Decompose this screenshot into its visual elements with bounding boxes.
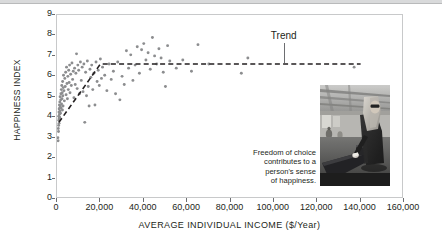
scatter-point: [66, 75, 69, 78]
scatter-point: [62, 89, 65, 92]
scatter-point: [57, 130, 60, 133]
caption-line-4: of happiness.: [208, 176, 316, 185]
scatter-point: [138, 72, 141, 75]
scatter-point: [58, 116, 61, 119]
y-axis-title: HAPPINESS INDEX: [12, 35, 22, 165]
x-tick-label: 160,000: [373, 203, 433, 212]
y-tick-label: 3: [30, 132, 52, 141]
y-tick-label: 7: [30, 50, 52, 59]
y-tick-label: 8: [30, 29, 52, 38]
y-tick-label: 5: [30, 91, 52, 100]
scatter-point: [62, 105, 65, 108]
scatter-point: [149, 68, 152, 71]
scatter-point: [61, 80, 64, 83]
scatter-point: [246, 56, 249, 59]
y-tick-mark: [52, 137, 55, 138]
caption-line-1: Freedom of choice: [208, 148, 316, 157]
top-band-rule: [0, 3, 442, 4]
scatter-point: [84, 71, 87, 74]
scatter-point: [142, 42, 145, 45]
y-tick-mark: [52, 157, 55, 158]
scatter-point: [131, 79, 134, 82]
scatter-point: [162, 71, 165, 74]
scatter-point: [72, 70, 75, 73]
scatter-point: [91, 88, 94, 91]
scatter-point: [101, 66, 104, 69]
scatter-point: [65, 66, 68, 69]
voting-photo-graphic: [320, 85, 390, 186]
scatter-point: [110, 78, 113, 81]
scatter-point: [89, 68, 92, 71]
scatter-point: [121, 75, 124, 78]
scatter-point: [61, 109, 64, 112]
scatter-point: [97, 69, 100, 72]
caption-line-3: person's sense: [208, 167, 316, 176]
scatter-point: [65, 93, 68, 96]
y-tick-label: 1: [30, 173, 52, 182]
scatter-point: [80, 79, 83, 82]
scatter-point: [190, 70, 193, 73]
scatter-point: [76, 87, 79, 90]
scatter-point: [175, 67, 178, 70]
scatter-point: [353, 66, 356, 69]
scatter-point: [63, 77, 66, 80]
scatter-point: [118, 98, 121, 101]
scatter-point: [57, 127, 60, 130]
scatter-point: [62, 74, 65, 77]
scatter-point: [64, 71, 67, 74]
figure-caption: Freedom of choice contributes to a perso…: [208, 148, 316, 186]
scatter-point: [103, 74, 106, 77]
scatter-point: [74, 83, 77, 86]
y-tick-mark: [52, 116, 55, 117]
y-tick-label: 4: [30, 111, 52, 120]
caption-line-2: contributes to a: [208, 157, 316, 166]
y-tick-mark: [52, 96, 55, 97]
trend-annotation-label: Trend: [254, 30, 314, 41]
scatter-point: [69, 73, 72, 76]
scatter-point: [98, 84, 101, 87]
scatter-point: [87, 85, 90, 88]
scatter-point: [61, 97, 64, 100]
scatter-point: [166, 44, 169, 47]
scatter-point: [75, 52, 78, 55]
scatter-point: [164, 85, 167, 88]
scatter-point: [105, 89, 108, 92]
trend-line: [59, 64, 361, 122]
scatter-point: [147, 51, 150, 54]
scatter-point: [74, 72, 77, 75]
scatter-point: [59, 112, 62, 115]
scatter-point: [95, 61, 98, 64]
y-tick-mark: [52, 75, 55, 76]
scatter-point: [88, 105, 91, 108]
scatter-point: [114, 92, 117, 95]
scatter-point: [153, 54, 156, 57]
scatter-point: [76, 64, 79, 67]
scatter-point: [151, 36, 154, 39]
scatter-point: [136, 45, 139, 48]
scatter-point: [85, 94, 88, 97]
scatter-point: [140, 48, 143, 51]
scatter-points: [57, 36, 356, 142]
scatter-point: [129, 53, 132, 56]
scatter-point: [160, 56, 163, 59]
y-tick-mark: [52, 34, 55, 35]
y-tick-label: 2: [30, 152, 52, 161]
scatter-point: [127, 67, 130, 70]
scatter-point: [197, 43, 200, 46]
scatter-point: [123, 83, 126, 86]
scatter-point: [57, 136, 59, 139]
scatter-point: [240, 72, 243, 75]
scatter-point: [66, 97, 69, 100]
scatter-point: [99, 58, 102, 61]
voting-photo: [320, 85, 390, 186]
scatter-point: [79, 61, 82, 64]
scatter-point: [157, 47, 160, 50]
scatter-point: [73, 67, 76, 70]
scatter-point: [61, 94, 64, 97]
y-tick-mark: [52, 178, 55, 179]
scatter-point: [71, 78, 74, 81]
y-tick-mark: [52, 14, 55, 15]
scatter-point: [81, 66, 84, 69]
scatter-point: [90, 64, 93, 67]
scatter-point: [64, 85, 67, 88]
